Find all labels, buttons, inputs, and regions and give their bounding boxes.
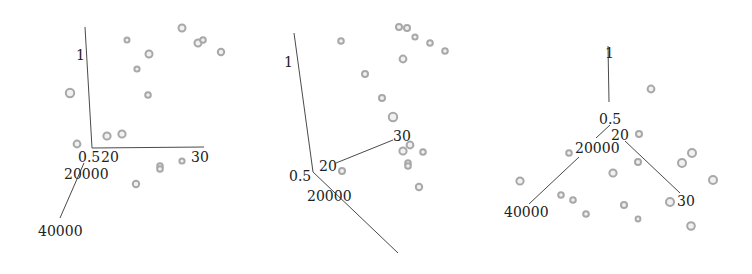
- data-point: [134, 66, 139, 71]
- x-tick-30-label: 30: [677, 193, 695, 209]
- data-point: [442, 48, 448, 54]
- z-tick-1-label: 1: [284, 54, 293, 70]
- view-3-panel: 10.520302000040000: [504, 45, 717, 230]
- data-point: [118, 130, 125, 137]
- z-tick-1-label: 1: [605, 45, 614, 61]
- data-point: [687, 222, 695, 230]
- data-point: [636, 131, 642, 137]
- data-point: [583, 211, 589, 217]
- y-tick-20000-label: 20000: [307, 188, 352, 204]
- z-tick-0.5-label: 0.5: [289, 168, 311, 184]
- z-axis-line: [85, 27, 92, 148]
- z-tick-0.5-label: 0.5: [599, 111, 621, 127]
- data-point: [74, 141, 81, 148]
- data-point: [179, 158, 184, 163]
- data-point: [399, 147, 406, 154]
- data-point: [404, 25, 410, 31]
- z-tick-0.5-label: 0.5: [78, 149, 100, 165]
- x-axis-line: [625, 141, 680, 193]
- data-point: [133, 181, 139, 187]
- view-1-panel: 10.520302000040000: [38, 25, 224, 240]
- data-point: [103, 132, 110, 139]
- data-point: [179, 25, 186, 32]
- data-point: [709, 176, 717, 184]
- data-point: [558, 192, 564, 198]
- data-point: [389, 113, 397, 121]
- data-point: [688, 149, 696, 157]
- data-point: [400, 56, 407, 63]
- data-point: [379, 95, 385, 101]
- x-tick-30-label: 30: [393, 128, 411, 144]
- x-axis-line: [92, 147, 204, 148]
- data-point: [416, 184, 422, 190]
- data-point: [666, 198, 674, 206]
- data-point: [338, 38, 344, 44]
- data-point: [200, 37, 206, 43]
- x-tick-20-label: 20: [101, 149, 119, 165]
- y-tick-20000-label: 20000: [64, 166, 109, 182]
- y-tick-40000-label: 40000: [504, 204, 549, 220]
- data-point: [339, 168, 345, 174]
- y-tick-40000-label: 40000: [38, 223, 83, 239]
- data-point: [218, 49, 224, 55]
- x-axis-line: [336, 140, 393, 163]
- y-tick-20000-label: 20000: [575, 140, 620, 156]
- data-point: [609, 169, 616, 176]
- data-point: [157, 166, 163, 172]
- data-point: [570, 197, 576, 203]
- data-point: [125, 38, 130, 43]
- data-point: [396, 24, 402, 30]
- data-point: [362, 71, 368, 77]
- data-point: [412, 34, 417, 39]
- z-tick-1-label: 1: [76, 47, 85, 63]
- data-point: [566, 150, 572, 156]
- data-point: [516, 177, 523, 184]
- x-tick-30-label: 30: [191, 149, 209, 165]
- data-point: [405, 163, 411, 169]
- data-point: [621, 202, 627, 208]
- scatter3d-figure: 10.520302000040000 10.5203020000 10.5203…: [0, 0, 752, 274]
- z-axis-line: [294, 33, 313, 172]
- data-point: [636, 217, 641, 222]
- view-2-panel: 10.5203020000: [284, 24, 448, 253]
- data-point: [635, 159, 641, 165]
- x-tick-20-label: 20: [319, 158, 337, 174]
- data-point: [145, 92, 151, 98]
- data-point: [66, 89, 74, 97]
- data-point: [146, 51, 153, 58]
- y-axis-line: [313, 172, 398, 253]
- data-point: [420, 149, 426, 155]
- data-point: [678, 159, 686, 167]
- data-point: [648, 86, 655, 93]
- data-point: [427, 40, 433, 46]
